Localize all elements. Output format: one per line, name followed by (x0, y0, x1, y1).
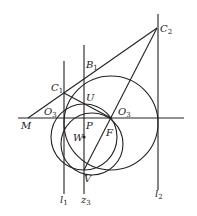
label-u: U (86, 92, 95, 103)
label-subscript: 3 (126, 111, 130, 119)
label-l1: l1 (60, 194, 68, 207)
label-subscript: 3 (52, 111, 56, 119)
label-subscript: 2 (158, 193, 162, 201)
label-m: M (20, 120, 32, 131)
label-p: P (85, 120, 93, 131)
label-c2: C2 (160, 23, 172, 36)
label-l2: l2 (155, 188, 163, 201)
label-z3: z3 (80, 194, 91, 207)
label-subscript: 2 (168, 28, 172, 36)
label-o3a: O3 (44, 106, 57, 119)
line-labels: l1z3l2 (60, 188, 163, 207)
tangent-line-m-c2 (28, 28, 157, 118)
label-c1: C1 (51, 82, 63, 95)
label-b1: B1 (85, 59, 98, 72)
label-f: F (105, 127, 114, 138)
label-subscript: 1 (93, 64, 97, 72)
label-subscript: 3 (86, 199, 90, 207)
label-subscript: 1 (59, 87, 63, 95)
label-o3b: O3 (118, 106, 131, 119)
geometry-diagram: C2B1C1UO3O3MPWFV l1z3l2 (0, 0, 197, 216)
line-c2-v (84, 28, 157, 170)
label-w: W (73, 132, 84, 143)
label-subscript: 1 (63, 199, 67, 207)
point-labels: C2B1C1UO3O3MPWFV (20, 23, 172, 184)
